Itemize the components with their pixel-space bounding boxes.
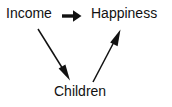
causal-diagram: Income Happiness Children: [0, 0, 172, 107]
arrow-children-to-happiness: [93, 30, 121, 83]
arrow-shaft: [93, 39, 116, 83]
node-label-income: Income: [6, 6, 52, 21]
arrow-shaft: [38, 29, 65, 72]
node-label-happiness: Happiness: [91, 6, 157, 21]
node-label-children: Children: [54, 84, 106, 99]
arrowhead: [59, 64, 70, 80]
arrow-income-to-children: [38, 29, 70, 81]
arrowhead: [110, 30, 120, 47]
arrow-income-to-happiness: [62, 10, 82, 22]
arrowhead: [73, 10, 82, 22]
